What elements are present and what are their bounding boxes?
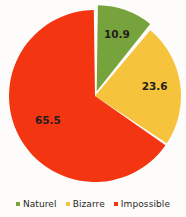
pie-plot-area: 10.9 23.6 65.5: [0, 0, 186, 190]
pie-svg: 10.9 23.6 65.5: [0, 0, 186, 190]
pie-label-bizarre: 23.6: [142, 80, 168, 92]
pie-chart: 10.9 23.6 65.5 Naturel Bizarre Impossibl…: [0, 0, 186, 217]
legend-item-naturel[interactable]: Naturel: [16, 200, 57, 209]
legend-swatch-bizarre: [66, 202, 70, 206]
legend-item-impossible[interactable]: Impossible: [114, 200, 170, 209]
legend-swatch-naturel: [16, 202, 20, 206]
legend-label-naturel: Naturel: [23, 200, 57, 209]
chart-legend: Naturel Bizarre Impossible: [0, 193, 186, 215]
legend-label-impossible: Impossible: [121, 200, 170, 209]
pie-label-impossible: 65.5: [35, 114, 61, 126]
legend-label-bizarre: Bizarre: [73, 200, 105, 209]
legend-swatch-impossible: [114, 202, 118, 206]
legend-item-bizarre[interactable]: Bizarre: [66, 200, 105, 209]
pie-slices: [9, 5, 181, 182]
pie-label-naturel: 10.9: [104, 28, 130, 40]
